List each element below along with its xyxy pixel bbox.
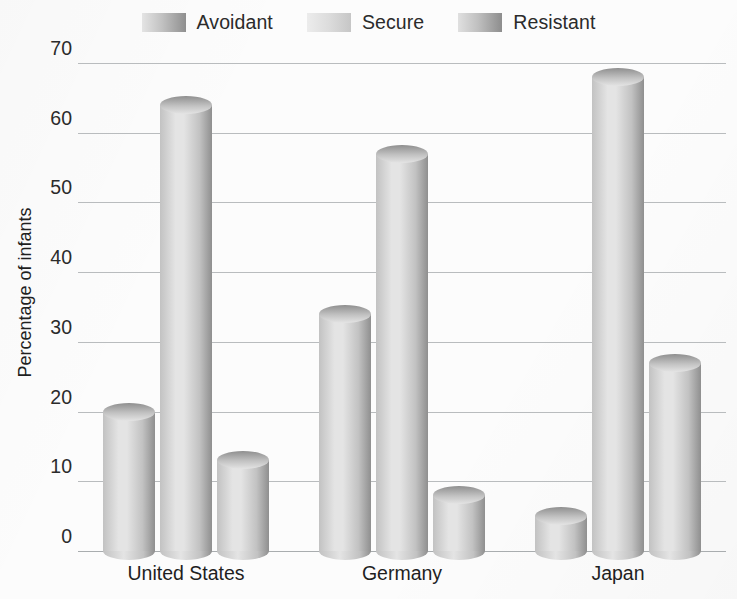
bar-avoidant-japan (535, 507, 587, 551)
bar-body (160, 105, 212, 551)
plot-area (78, 63, 726, 551)
legend-item-avoidant: Avoidant (142, 11, 273, 34)
legend-item-resistant: Resistant (458, 11, 595, 34)
bar-resistant-germany (433, 486, 485, 551)
bar-resistant-united-states (217, 451, 269, 551)
bar-top-ellipse (376, 145, 428, 163)
legend-item-secure: Secure (307, 11, 424, 34)
bar-top-ellipse (319, 305, 371, 323)
y-tick-label-70: 70 (26, 37, 72, 63)
bar-body (103, 412, 155, 551)
bar-secure-japan (592, 68, 644, 551)
legend-label-secure: Secure (362, 11, 424, 34)
legend-swatch-secure (307, 13, 351, 32)
legend-swatch-avoidant (142, 13, 186, 32)
legend-swatch-resistant (458, 13, 502, 32)
y-tick-label-60: 60 (26, 107, 72, 133)
legend-label-avoidant: Avoidant (197, 11, 273, 34)
gridline-70 (78, 63, 726, 64)
x-tick-label-germany: Germany (362, 562, 442, 585)
bar-body (376, 154, 428, 551)
bar-chart: Avoidant Secure Resistant Percentage of … (0, 0, 737, 599)
bar-top-ellipse (649, 354, 701, 372)
y-tick-label-30: 30 (26, 316, 72, 342)
bar-top-ellipse (160, 96, 212, 114)
bar-resistant-japan (649, 354, 701, 551)
bar-top-ellipse (103, 403, 155, 421)
bar-top-ellipse (592, 68, 644, 86)
bar-secure-germany (376, 145, 428, 551)
y-tick-label-10: 10 (26, 455, 72, 481)
bar-body (319, 314, 371, 551)
bar-avoidant-united-states (103, 403, 155, 551)
y-tick-label-50: 50 (26, 176, 72, 202)
bar-secure-united-states (160, 96, 212, 551)
x-tick-label-united-states: United States (127, 562, 244, 585)
y-axis-tick-labels: 010203040506070 (20, 63, 72, 551)
x-tick-label-japan: Japan (591, 562, 644, 585)
bar-avoidant-germany (319, 305, 371, 551)
y-tick-label-20: 20 (26, 386, 72, 412)
bar-body (592, 77, 644, 551)
y-tick-label-40: 40 (26, 246, 72, 272)
x-axis-tick-labels: United StatesGermanyJapan (78, 562, 726, 592)
y-tick-label-0: 0 (26, 525, 72, 551)
chart-legend: Avoidant Secure Resistant (0, 8, 737, 36)
legend-label-resistant: Resistant (513, 11, 595, 34)
bar-body (649, 363, 701, 551)
bar-body (217, 460, 269, 551)
